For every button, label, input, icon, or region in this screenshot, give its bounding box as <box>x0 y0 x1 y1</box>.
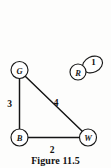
weight-label-g-w: 4 <box>54 98 59 108</box>
node-label-b: B <box>16 133 23 143</box>
weight-label-g-b: 3 <box>7 99 12 109</box>
node-label-g: G <box>16 66 23 76</box>
node-label-r: R <box>74 68 81 78</box>
weight-label-r-self: 1 <box>91 57 96 67</box>
figure-container: G B W R 3 4 2 1 Figure 11.5 <box>0 0 111 168</box>
graph-diagram: G B W R 3 4 2 1 <box>0 0 111 168</box>
figure-caption: Figure 11.5 <box>0 155 111 167</box>
weight-label-b-w: 2 <box>50 145 55 155</box>
